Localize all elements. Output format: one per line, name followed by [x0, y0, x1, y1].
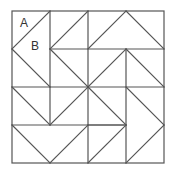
diagonal — [126, 49, 164, 87]
diagonal — [50, 11, 88, 49]
diagonal — [126, 87, 164, 125]
diagonal — [88, 49, 126, 87]
diagonal — [12, 87, 50, 125]
diagonal — [88, 125, 126, 163]
label-a: A — [20, 16, 28, 30]
diagonal — [88, 87, 126, 125]
diagonal — [88, 11, 126, 49]
diagonal — [12, 49, 50, 87]
diagonal — [50, 125, 88, 163]
diagonal — [50, 49, 88, 87]
diagonal — [126, 11, 164, 49]
diagonal — [12, 125, 50, 163]
diagonal — [50, 87, 88, 125]
quilt-pattern-diagram: A B — [0, 0, 176, 169]
label-b: B — [31, 39, 39, 53]
diagonal — [126, 125, 164, 163]
